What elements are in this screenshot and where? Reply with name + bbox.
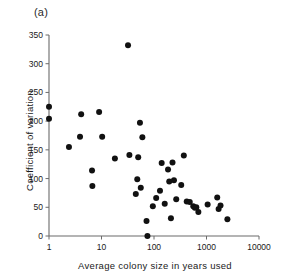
x-tick-label: 10 (97, 242, 107, 252)
scatter-plot: 050100150200250300350110100100010000 (0, 0, 289, 279)
x-axis-title: Average colony size in years used (30, 260, 280, 271)
data-point (66, 144, 72, 150)
data-point (126, 152, 132, 158)
x-tick-label: 10000 (247, 242, 271, 252)
data-point (89, 168, 95, 174)
data-point (46, 104, 52, 110)
y-tick-label: 0 (38, 231, 43, 241)
data-point (78, 111, 84, 117)
data-point (171, 177, 177, 183)
data-point (133, 191, 139, 197)
x-tick-label: 100 (147, 242, 161, 252)
data-point (138, 185, 144, 191)
axes: 050100150200250300350110100100010000 (29, 30, 271, 252)
x-tick-label: 1000 (197, 242, 216, 252)
figure-panel: (a) 050100150200250300350110100100010000… (0, 0, 289, 279)
data-point (144, 233, 150, 239)
data-point (77, 134, 83, 140)
data-point (173, 196, 179, 202)
data-point (135, 154, 141, 160)
y-tick-label: 350 (29, 30, 43, 40)
x-tick-label: 1 (47, 242, 52, 252)
data-point (153, 195, 159, 201)
data-point (144, 218, 150, 224)
y-tick-label: 50 (34, 202, 44, 212)
data-point (224, 216, 230, 222)
data-point (218, 203, 224, 209)
data-point (89, 183, 95, 189)
data-point (178, 182, 184, 188)
data-point (96, 109, 102, 115)
y-axis-title: Coefficient of variation (24, 61, 35, 221)
data-point (214, 195, 220, 201)
data-point (162, 201, 168, 207)
data-point (195, 209, 201, 215)
data-point (169, 159, 175, 165)
data-point (125, 42, 131, 48)
data-point (168, 215, 174, 221)
data-point (205, 201, 211, 207)
data-point (112, 155, 118, 161)
data-point (181, 153, 187, 159)
data-point (165, 166, 171, 172)
data-points (46, 42, 230, 239)
data-point (139, 134, 145, 140)
data-point (159, 160, 165, 166)
data-point (137, 120, 143, 126)
data-point (150, 203, 156, 209)
data-point (134, 176, 140, 182)
data-point (46, 116, 52, 122)
data-point (99, 134, 105, 140)
data-point (157, 188, 163, 194)
